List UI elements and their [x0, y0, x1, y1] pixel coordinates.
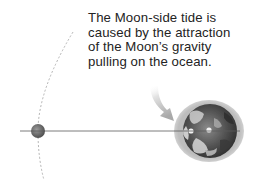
- tide-point-center: [206, 127, 211, 132]
- moon-orbit-arc: [38, 32, 73, 180]
- tide-diagram: [0, 0, 262, 183]
- pointer-arrow-icon: [150, 86, 174, 121]
